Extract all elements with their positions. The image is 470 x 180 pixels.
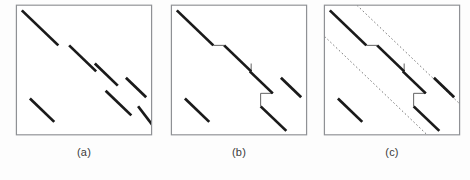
- panel-b-caption: (b): [166, 146, 312, 158]
- panel-b: (b): [166, 0, 312, 180]
- panel-c: (c): [319, 0, 465, 180]
- panel-b-plot: [166, 0, 312, 140]
- figure-container: (a) (b) (c): [0, 0, 470, 180]
- panel-c-plot: [319, 0, 465, 140]
- panel-a-caption: (a): [11, 146, 157, 158]
- panel-a: (a): [11, 0, 157, 180]
- panel-a-plot: [11, 0, 157, 140]
- panel-c-caption: (c): [319, 146, 465, 158]
